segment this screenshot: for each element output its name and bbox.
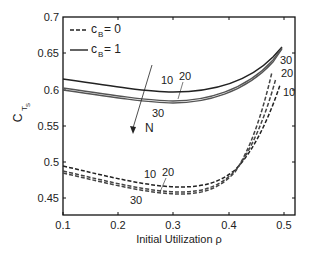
svg-text:20: 20 <box>281 67 293 79</box>
svg-text:= 1: = 1 <box>104 42 121 56</box>
x-tick-label: 0.1 <box>55 219 70 231</box>
svg-text:N: N <box>145 121 154 135</box>
svg-text:c: c <box>91 22 97 36</box>
svg-text:= 0: = 0 <box>104 22 121 36</box>
svg-text:B: B <box>98 50 103 59</box>
svg-text:30: 30 <box>280 54 292 66</box>
y-tick-label: 0.55 <box>38 120 59 132</box>
svg-text:20: 20 <box>179 70 191 82</box>
svg-text:10: 10 <box>144 168 156 180</box>
legend: c B = 0 c B = 1 <box>70 22 121 59</box>
x-tick-label: 0.4 <box>221 219 236 231</box>
x-axis-label: Initial Utilization ρ <box>136 233 222 245</box>
y-axis-label: C T S <box>11 103 31 122</box>
svg-text:C: C <box>11 113 25 122</box>
svg-text:10: 10 <box>161 74 173 86</box>
x-tick-label: 0.3 <box>165 219 180 231</box>
y-tick-label: 0.7 <box>44 11 59 23</box>
svg-text:30: 30 <box>152 107 164 119</box>
chart: 0.1 0.2 0.3 0.4 0.5 Initial Utilization … <box>0 0 313 254</box>
x-tick-label: 0.5 <box>276 219 291 231</box>
svg-text:S: S <box>25 103 31 107</box>
y-tick-label: 0.5 <box>44 156 59 168</box>
svg-text:20: 20 <box>162 166 174 178</box>
svg-text:30: 30 <box>130 194 142 206</box>
y-tick-label: 0.6 <box>44 84 59 96</box>
y-tick-label: 0.45 <box>38 192 59 204</box>
x-tick-label: 0.2 <box>110 219 125 231</box>
svg-text:c: c <box>91 42 97 56</box>
svg-text:10: 10 <box>283 86 295 98</box>
svg-text:B: B <box>98 30 103 39</box>
y-tick-label: 0.65 <box>38 47 59 59</box>
